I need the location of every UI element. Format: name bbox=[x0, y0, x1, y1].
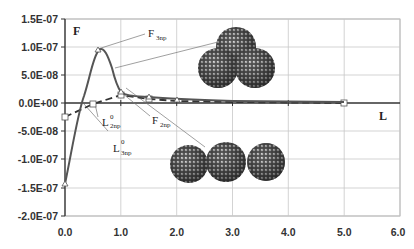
y-axis-label: F bbox=[73, 24, 80, 38]
y-tick: -5.0E-08 bbox=[18, 125, 58, 137]
svg-text:L: L bbox=[113, 142, 120, 154]
svg-text:F: F bbox=[152, 114, 158, 126]
y-tick: 1.0E-07 bbox=[21, 41, 58, 53]
x-tick: 1.0 bbox=[113, 226, 128, 238]
force-vs-distance-chart: 1.5E-07 1.0E-07 5.0E-08 0.0E+00 -5.0E-08… bbox=[0, 0, 414, 249]
y-tick-labels: 1.5E-07 1.0E-07 5.0E-08 0.0E+00 -5.0E-08… bbox=[18, 13, 58, 222]
x-tick: 2.0 bbox=[169, 226, 184, 238]
y-tick: 1.5E-07 bbox=[21, 13, 58, 25]
svg-text:2np: 2np bbox=[160, 121, 171, 129]
y-tick: -1.0E-07 bbox=[18, 153, 58, 165]
x-tick: 5.0 bbox=[337, 226, 352, 238]
svg-text:F: F bbox=[148, 27, 154, 39]
svg-text:0: 0 bbox=[121, 138, 125, 146]
x-tick: 4.0 bbox=[281, 226, 296, 238]
x-tick: 3.0 bbox=[225, 226, 240, 238]
y-tick: -1.5E-07 bbox=[18, 182, 58, 194]
svg-text:0: 0 bbox=[110, 113, 114, 121]
y-tick: 0.0E+00 bbox=[19, 97, 59, 109]
y-tick: 5.0E-08 bbox=[21, 69, 58, 81]
x-axis-label: L bbox=[379, 109, 387, 123]
nanoparticle-chain-image bbox=[170, 142, 285, 183]
y-tick: -2.0E-07 bbox=[18, 210, 58, 222]
svg-text:3np: 3np bbox=[156, 34, 167, 42]
x-tick: 0.0 bbox=[58, 226, 73, 238]
svg-text:2np: 2np bbox=[110, 122, 121, 130]
svg-text:3np: 3np bbox=[121, 149, 132, 157]
x-tick: 6.0 bbox=[391, 226, 406, 238]
svg-text:L: L bbox=[102, 116, 109, 128]
x-tick-labels: 0.0 1.0 2.0 3.0 4.0 5.0 6.0 bbox=[58, 226, 406, 238]
